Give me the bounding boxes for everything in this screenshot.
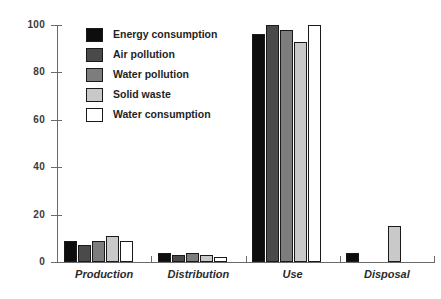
bar	[158, 253, 171, 262]
bar	[252, 34, 265, 262]
bar	[106, 236, 119, 262]
legend-swatch-icon	[86, 88, 103, 102]
legend-swatch-icon	[86, 68, 103, 82]
x-axis-group-label: Disposal	[340, 268, 434, 280]
bar	[214, 257, 227, 262]
x-axis-tick	[434, 256, 435, 263]
legend-item-label: Water consumption	[113, 109, 211, 120]
bar	[64, 241, 77, 262]
legend-item-label: Water pollution	[113, 69, 189, 80]
bar	[388, 226, 401, 262]
bar	[186, 253, 199, 262]
y-axis-tick-label: 80	[5, 67, 45, 77]
bar	[172, 255, 185, 262]
y-axis-tick-label: 100	[5, 20, 45, 30]
bar	[346, 253, 359, 262]
y-axis-tick-label: 40	[5, 162, 45, 172]
legend-item: Water pollution	[86, 65, 246, 84]
legend-item-label: Energy consumption	[113, 29, 217, 40]
x-axis-group-label: Production	[57, 268, 151, 280]
legend-item: Energy consumption	[86, 25, 246, 44]
legend-swatch-icon	[86, 28, 103, 42]
legend-item: Water consumption	[86, 105, 246, 124]
bar	[92, 241, 105, 262]
bar	[200, 255, 213, 262]
bar-chart: 020406080100 ProductionDistributionUseDi…	[0, 0, 441, 299]
bar	[266, 25, 279, 262]
bar	[280, 30, 293, 262]
chart-legend: Energy consumptionAir pollutionWater pol…	[86, 25, 246, 125]
legend-item: Solid waste	[86, 85, 246, 104]
legend-item-label: Solid waste	[113, 89, 171, 100]
x-axis-group-label: Use	[246, 268, 340, 280]
y-axis-tick-label: 0	[5, 257, 45, 267]
y-axis-tick-label: 60	[5, 115, 45, 125]
bar	[308, 25, 321, 262]
legend-item-label: Air pollution	[113, 49, 175, 60]
legend-item: Air pollution	[86, 45, 246, 64]
legend-swatch-icon	[86, 48, 103, 62]
bar	[78, 245, 91, 262]
bar	[294, 42, 307, 262]
x-axis-group-label: Distribution	[151, 268, 245, 280]
y-axis-tick-label: 20	[5, 210, 45, 220]
legend-swatch-icon	[86, 108, 103, 122]
bar	[120, 241, 133, 262]
